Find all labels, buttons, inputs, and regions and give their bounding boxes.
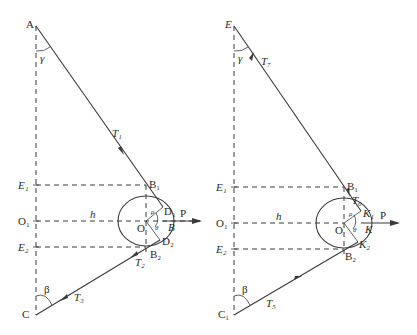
right-gamma-arc — [234, 47, 248, 51]
left-p-arrowhead — [192, 218, 202, 224]
right-p-arrowhead — [390, 220, 400, 226]
left-t3-arrowhead — [60, 294, 68, 301]
right-diagram: E γ T₇ E₁ O₁ E₂ h B₁ T₆ K₁ P O ρ θ K K₂ … — [215, 18, 400, 320]
label-angle-rho: ρ — [150, 208, 155, 216]
label-point-c: C₁ — [218, 308, 229, 320]
left-diagram: A γ T₁ E₁ O₁ E₂ h B₁ D₁ P O ρ θ B D₂ B₂ … — [17, 18, 202, 320]
label-point-e: E — [224, 18, 232, 30]
label-point-c: C — [22, 308, 29, 320]
label-point-b1: B₁ — [149, 178, 160, 190]
diagram-canvas: A γ T₁ E₁ O₁ E₂ h B₁ D₁ P O ρ θ B D₂ B₂ … — [0, 0, 417, 335]
label-force-p: P — [380, 209, 386, 221]
label-angle-beta: β — [44, 283, 50, 295]
label-force-t6: T₆ — [352, 194, 362, 206]
label-point-e2: E₂ — [215, 243, 227, 255]
right-t7-arrowhead — [249, 52, 254, 61]
label-point-e1: E₁ — [215, 181, 227, 193]
right-radius-k1 — [344, 211, 361, 223]
label-point-k1: K₁ — [362, 207, 374, 219]
label-point-b2: B₂ — [345, 250, 356, 262]
label-point-e2: E₂ — [17, 241, 29, 253]
label-angle-rho: ρ — [348, 210, 353, 218]
label-point-b1: B₁ — [347, 180, 358, 192]
label-force-t5: T₅ — [266, 297, 276, 309]
right-t5-arrowhead — [294, 276, 302, 280]
label-point-k2: K₂ — [358, 238, 370, 250]
label-point-b: B — [168, 221, 175, 233]
label-point-d1: D₁ — [164, 205, 176, 217]
label-force-t7: T₇ — [261, 55, 271, 67]
label-force-p: P — [180, 207, 186, 219]
label-force-t1: T₁ — [112, 127, 122, 139]
label-angle-gamma: γ — [238, 52, 243, 64]
label-point-k: K — [364, 223, 373, 235]
left-cable-upper — [36, 26, 163, 207]
right-beta-arc — [234, 295, 250, 305]
left-gamma-arc — [36, 47, 50, 51]
label-dimension-h: h — [276, 210, 282, 222]
label-point-o1: O₁ — [18, 215, 30, 227]
label-point-o: O — [335, 224, 343, 236]
left-radius-d1 — [146, 207, 163, 221]
label-dimension-h: h — [90, 208, 96, 220]
label-force-t2: T₂ — [135, 256, 145, 268]
left-beta-arc — [36, 295, 52, 305]
label-point-e1: E₁ — [17, 179, 29, 191]
label-angle-theta: θ — [353, 226, 357, 234]
label-point-o: O — [137, 222, 145, 234]
label-angle-beta: β — [242, 283, 248, 295]
left-cable-lower — [36, 240, 160, 315]
label-force-t3: T₃ — [74, 291, 84, 303]
label-point-d2: D₂ — [162, 235, 174, 247]
label-point-o1: O₁ — [216, 217, 228, 229]
label-point-b2: B₂ — [150, 248, 161, 260]
label-angle-theta: θ — [155, 224, 159, 232]
label-angle-gamma: γ — [40, 52, 45, 64]
label-point-a: A — [26, 18, 34, 30]
